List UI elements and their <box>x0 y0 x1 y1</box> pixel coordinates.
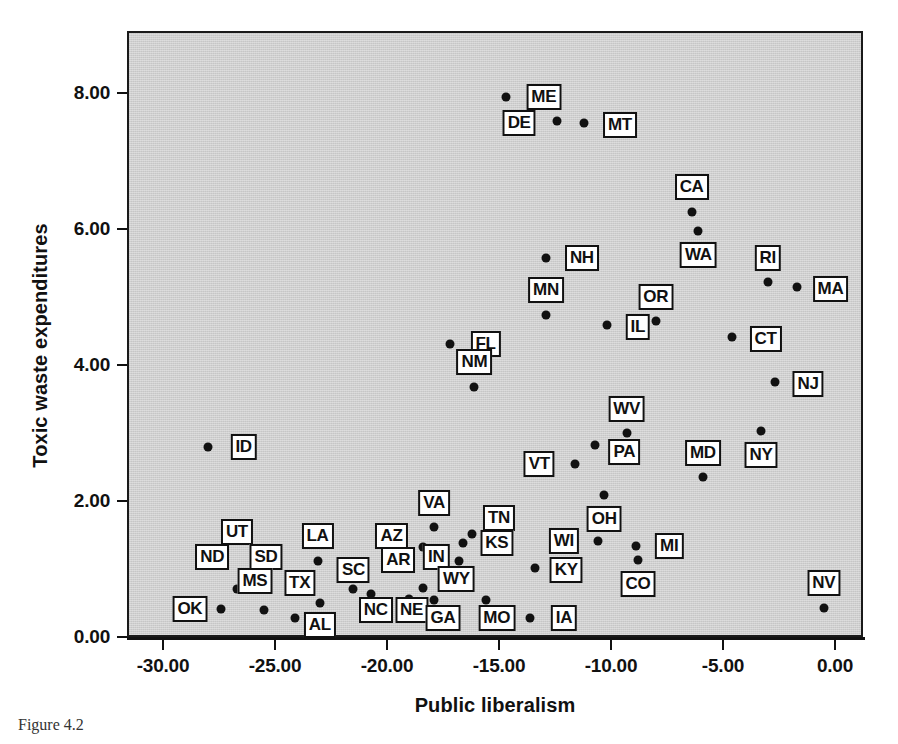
data-point <box>631 541 640 550</box>
y-tick-label: 0.00 <box>0 626 110 648</box>
data-point <box>727 333 736 342</box>
data-point <box>602 320 611 329</box>
data-point <box>315 599 324 608</box>
data-point <box>481 596 490 605</box>
point-label-sc: SC <box>337 557 370 583</box>
y-tick <box>117 228 127 230</box>
point-label-mi: MI <box>655 533 683 559</box>
data-point <box>203 443 212 452</box>
data-point <box>687 208 696 217</box>
point-label-az: AZ <box>375 523 407 549</box>
point-label-ga: GA <box>426 605 461 631</box>
y-tick-label: 2.00 <box>0 490 110 512</box>
y-axis-title: Toxic waste expenditures <box>29 136 52 556</box>
y-tick <box>117 636 127 638</box>
point-label-ks: KS <box>480 530 513 556</box>
point-label-wa: WA <box>680 242 717 268</box>
point-label-de: DE <box>503 110 536 136</box>
x-tick <box>722 640 724 650</box>
data-point <box>542 254 551 263</box>
figure-caption: Figure 4.2 <box>18 716 84 734</box>
point-label-wi: WI <box>549 528 579 554</box>
x-tick-label: -30.00 <box>137 655 190 677</box>
y-tick-label: 6.00 <box>0 218 110 240</box>
y-tick <box>117 364 127 366</box>
data-point <box>291 613 300 622</box>
x-tick <box>610 640 612 650</box>
point-label-co: CO <box>620 571 655 597</box>
point-label-tx: TX <box>284 570 315 596</box>
point-label-mn: MN <box>528 277 564 303</box>
point-label-nm: NM <box>456 349 492 375</box>
data-point <box>770 378 779 387</box>
x-tick <box>162 640 164 650</box>
data-point <box>418 584 427 593</box>
point-label-mt: MT <box>603 112 637 138</box>
point-label-sd: SD <box>250 544 283 570</box>
x-tick-label: -10.00 <box>585 655 638 677</box>
data-point <box>445 339 454 348</box>
data-point <box>553 116 562 125</box>
x-tick-label: -5.00 <box>702 655 744 677</box>
data-point <box>217 605 226 614</box>
point-label-wy: WY <box>438 566 475 592</box>
y-tick <box>117 500 127 502</box>
data-point <box>501 93 510 102</box>
data-point <box>819 603 828 612</box>
point-label-ut: UT <box>221 519 253 545</box>
data-point <box>526 613 535 622</box>
point-label-ky: KY <box>550 557 583 583</box>
point-label-mo: MO <box>478 605 515 631</box>
y-tick <box>117 92 127 94</box>
x-axis-title: Public liberalism <box>127 694 863 717</box>
data-point <box>530 563 539 572</box>
point-label-nv: NV <box>807 570 840 596</box>
point-label-nc: NC <box>359 597 393 623</box>
point-label-or: OR <box>638 284 673 310</box>
point-label-ia: IA <box>551 605 577 631</box>
point-label-md: MD <box>685 440 721 466</box>
point-label-tn: TN <box>483 505 515 531</box>
point-label-ar: AR <box>381 547 415 573</box>
data-point <box>651 316 660 325</box>
data-point <box>259 605 268 614</box>
data-point <box>430 522 439 531</box>
point-label-la: LA <box>302 523 334 549</box>
data-point <box>580 118 589 127</box>
x-tick-label: -25.00 <box>249 655 302 677</box>
data-point <box>600 490 609 499</box>
y-tick-label: 4.00 <box>0 354 110 376</box>
x-tick <box>386 640 388 650</box>
data-point <box>571 460 580 469</box>
data-point <box>633 556 642 565</box>
point-label-ny: NY <box>745 442 778 468</box>
point-label-me: ME <box>526 84 561 110</box>
x-axis-line <box>127 637 865 640</box>
point-label-ms: MS <box>237 568 272 594</box>
x-tick-label: -15.00 <box>473 655 526 677</box>
y-tick-label: 8.00 <box>0 82 110 104</box>
data-point <box>349 584 358 593</box>
point-label-il: IL <box>626 314 651 340</box>
x-tick-label: -20.00 <box>361 655 414 677</box>
data-point <box>430 596 439 605</box>
data-point <box>454 556 463 565</box>
data-point <box>792 282 801 291</box>
point-label-ne: NE <box>395 597 428 623</box>
point-label-ri: RI <box>755 245 781 271</box>
point-label-wv: WV <box>608 396 645 422</box>
data-point <box>459 539 468 548</box>
point-label-al: AL <box>304 612 336 638</box>
x-tick <box>274 640 276 650</box>
data-point <box>757 426 766 435</box>
point-label-vt: VT <box>524 451 555 477</box>
data-point <box>698 473 707 482</box>
data-point <box>468 529 477 538</box>
point-label-ma: MA <box>813 276 849 302</box>
data-point <box>313 556 322 565</box>
figure-scatter-plot: -30.00-25.00-20.00-15.00-10.00-5.000.00 … <box>0 0 898 744</box>
data-point <box>622 429 631 438</box>
point-label-va: VA <box>418 490 450 516</box>
x-tick-label: 0.00 <box>817 655 853 677</box>
data-point <box>470 382 479 391</box>
